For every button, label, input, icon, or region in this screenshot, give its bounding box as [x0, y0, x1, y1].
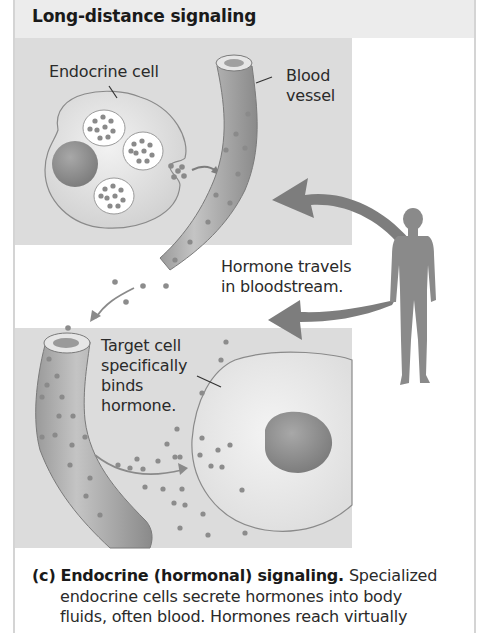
label-target-cell-line1: Target cell	[101, 336, 181, 355]
label-target-cell-line4: hormone.	[101, 396, 176, 415]
binding-arrowhead-icon	[178, 463, 188, 475]
hormone-dots-gap	[65, 279, 169, 331]
signal-arrow-lower-icon	[268, 300, 395, 340]
label-hormone-travels-line2: in bloodstream.	[221, 277, 343, 296]
label-hormone-travels-line1: Hormone travels	[221, 257, 351, 276]
label-target-cell-line3: binds	[101, 376, 143, 395]
diagram-artwork	[0, 0, 487, 633]
label-blood-line1: Blood	[286, 66, 330, 85]
figure-caption: (c) Endocrine (hormonal) signaling. Spec…	[32, 566, 472, 628]
label-target-cell-line2: specifically	[101, 356, 187, 375]
caption-line2: endocrine cells secrete hormones into bo…	[32, 587, 472, 608]
label-vessel-line2: vessel	[286, 86, 335, 105]
caption-line3: fluids, often blood. Hormones reach virt…	[32, 607, 472, 628]
blood-vessel-icon	[160, 55, 272, 270]
label-endocrine-cell: Endocrine cell	[49, 62, 159, 81]
caption-label: (c)	[32, 566, 56, 585]
target-cell-icon	[192, 352, 352, 531]
signal-arrow-upper-icon	[272, 178, 410, 248]
endocrine-cell-icon	[45, 86, 187, 228]
caption-bold-title: Endocrine (hormonal) signaling.	[60, 566, 344, 585]
caption-line1-rest: Specialized	[349, 566, 437, 585]
